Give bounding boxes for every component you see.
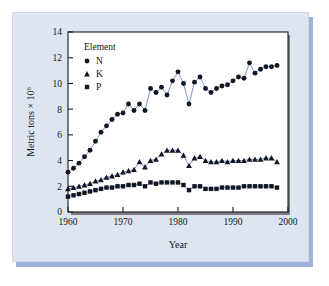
y-tick-label: 4 [57,156,62,166]
circle-marker-icon [181,81,186,86]
x-tick-label: 1990 [224,217,243,227]
circle-marker-icon [247,60,252,65]
square-marker-icon [236,185,240,189]
y-tick-label: 10 [53,79,63,89]
circle-marker-icon [77,161,82,166]
x-tick-label: 1980 [169,217,188,227]
square-marker-icon [93,188,97,192]
square-marker-icon [242,184,246,188]
square-marker-icon [148,180,152,184]
square-marker-icon [170,180,174,184]
circle-marker-icon [176,69,181,74]
square-marker-icon [253,184,257,188]
square-marker-icon [187,188,191,192]
square-marker-icon [264,184,268,188]
square-marker-icon [181,183,185,187]
circle-marker-icon [82,154,87,159]
square-marker-icon [258,184,262,188]
x-tick-label: 1970 [114,217,133,227]
circle-marker-icon [236,75,241,80]
circle-marker-icon [66,170,71,175]
figure-root: 1960197019801990200002468101214 ElementN… [0,0,329,286]
circle-marker-icon [99,130,104,135]
square-marker-icon [104,185,108,189]
circle-marker-icon [231,78,236,83]
circle-marker-icon [143,108,148,113]
square-marker-icon [77,192,81,196]
x-tick-label: 2000 [279,217,298,227]
square-marker-icon [247,184,251,188]
square-marker-icon [220,185,224,189]
square-marker-icon [198,184,202,188]
square-marker-icon [159,180,163,184]
y-axis-title-group: Metric tons × 106 [25,86,37,156]
square-marker-icon [66,194,70,198]
x-tick-label: 1960 [59,217,78,227]
legend-label-N: N [96,56,103,66]
y-tick-label: 12 [53,53,63,63]
circle-marker-icon [154,90,159,95]
circle-marker-icon [170,78,175,83]
circle-marker-icon [88,148,93,153]
square-marker-icon [275,185,279,189]
square-marker-icon [126,183,130,187]
circle-marker-icon [159,85,164,90]
square-marker-icon [203,187,207,191]
square-marker-icon [165,180,169,184]
circle-marker-icon [121,111,126,116]
y-tick-label: 8 [57,105,62,115]
square-marker-icon [115,184,119,188]
square-marker-icon [176,180,180,184]
circle-marker-icon [93,139,98,144]
legend-label-K: K [96,69,103,79]
circle-marker-icon [242,76,247,81]
circle-marker-icon [258,67,263,72]
y-tick-label: 0 [57,207,62,217]
circle-marker-icon [253,71,258,76]
chart-plot-area: 1960197019801990200002468101214 ElementN… [0,0,329,286]
circle-marker-icon [126,102,131,107]
square-marker-icon [143,184,147,188]
circle-marker-icon [137,102,142,107]
square-marker-icon [88,189,92,193]
square-marker-icon [82,191,86,195]
square-marker-icon [154,182,158,186]
circle-marker-icon [148,86,153,91]
square-marker-icon [110,185,114,189]
y-axis-title: Metric tons × 106 [25,86,37,156]
circle-marker-icon [115,112,120,117]
square-marker-icon [225,185,229,189]
circle-marker-icon [269,64,274,69]
x-axis-title: Year [169,239,188,250]
square-marker-icon [192,184,196,188]
square-marker-icon [231,185,235,189]
circle-marker-icon [203,86,208,91]
square-marker-icon [132,183,136,187]
circle-marker-icon [214,86,219,91]
square-marker-icon [214,187,218,191]
y-tick-label: 14 [53,27,63,37]
circle-marker-icon [132,108,137,113]
circle-marker-icon [264,64,269,69]
circle-marker-icon [225,82,230,87]
legend-label-P: P [96,82,101,92]
circle-marker-icon [104,123,109,128]
line-chart-svg: 1960197019801990200002468101214 ElementN… [0,0,329,286]
legend-title: Element [84,42,116,52]
circle-marker-icon [85,59,90,64]
square-marker-icon [99,187,103,191]
square-marker-icon [209,187,213,191]
square-marker-icon [71,193,75,197]
y-tick-label: 2 [57,182,62,192]
square-marker-icon [121,184,125,188]
circle-marker-icon [198,75,203,80]
square-marker-icon [85,85,89,89]
circle-marker-icon [220,84,225,89]
square-marker-icon [137,182,141,186]
circle-marker-icon [209,90,214,95]
circle-marker-icon [165,93,170,98]
circle-marker-icon [187,102,192,107]
circle-marker-icon [275,63,280,68]
circle-marker-icon [192,80,197,85]
circle-marker-icon [71,166,76,171]
